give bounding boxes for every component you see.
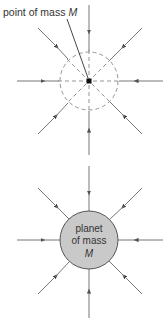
planet-field: planet of mass M (17, 166, 163, 318)
planet-label-symbol: M (85, 248, 94, 259)
point-mass-label: point of mass M (3, 6, 77, 18)
planet-label-line2: of mass (71, 235, 106, 246)
point-mass-field: point of mass M (3, 5, 163, 155)
planet-label-line1: planet (75, 223, 102, 234)
point-mass-dot (87, 79, 92, 84)
gravitational-field-diagram: point of mass M (0, 0, 166, 325)
